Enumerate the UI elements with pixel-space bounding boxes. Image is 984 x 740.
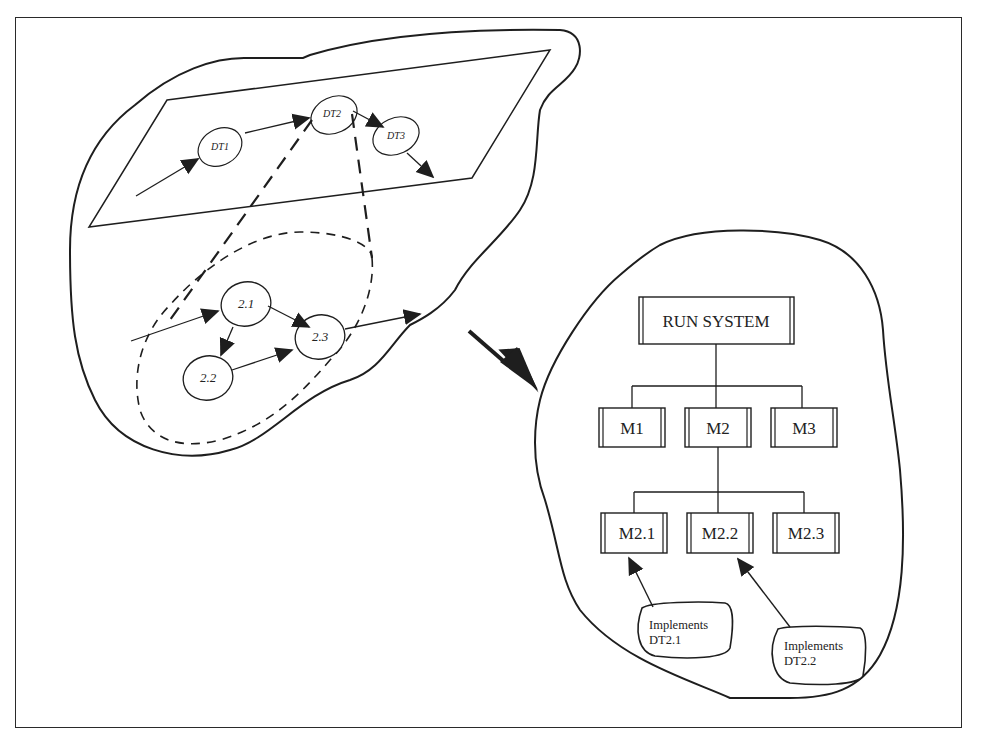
node-2-3: 2.3 [290, 309, 350, 364]
node-dt2-label: DT2 [322, 108, 341, 119]
node-2-3-label: 2.3 [312, 329, 329, 344]
module-m2-1: M2.1 [601, 513, 667, 553]
module-m3-label: M3 [792, 419, 816, 438]
module-m2: M2 [685, 408, 751, 447]
module-m2-label: M2 [706, 419, 730, 438]
note-implements-dt2-2: Implements DT2.2 [772, 626, 865, 684]
module-m3: M3 [771, 408, 837, 447]
note-1-line1: Implements [649, 618, 708, 632]
module-run-system: RUN SYSTEM [639, 297, 794, 344]
note-2-line1: Implements [784, 639, 843, 653]
arrow-dt3-out [407, 153, 433, 177]
module-m2-2: M2.2 [687, 513, 753, 553]
diagram-canvas: DT1 DT2 DT3 2.1 2.2 2.3 [0, 0, 984, 740]
node-2-1: 2.1 [216, 276, 276, 331]
arrow-note1-m2-1 [629, 558, 653, 607]
expansion-line-right [352, 114, 372, 258]
module-m1: M1 [599, 408, 665, 447]
module-run-system-label: RUN SYSTEM [662, 312, 769, 331]
arrow-note2-m2-2 [738, 559, 790, 627]
arrow-dt1-dt2 [245, 118, 309, 133]
node-dt2: DT2 [305, 89, 364, 142]
left-region-outline [70, 30, 580, 456]
module-m2-3-label: M2.3 [788, 524, 824, 543]
node-2-2: 2.2 [178, 350, 238, 405]
top-plane [89, 50, 550, 227]
node-2-1-label: 2.1 [238, 296, 254, 311]
module-m2-3: M2.3 [773, 513, 839, 553]
arrow-dt2-dt3 [353, 111, 383, 127]
node-dt1-label: DT1 [210, 141, 229, 152]
transform-arrow-icon [469, 331, 541, 392]
arrow-in-dt1 [136, 159, 198, 196]
arrow-2-1-2-2 [221, 327, 233, 355]
note-implements-dt2-1: Implements DT2.1 [638, 602, 732, 658]
node-dt3: DT3 [367, 110, 426, 163]
node-dt3-label: DT3 [386, 130, 405, 141]
module-m1-label: M1 [620, 419, 644, 438]
note-1-line2: DT2.1 [649, 633, 681, 647]
note-2-line2: DT2.2 [784, 654, 816, 668]
arrow-2-1-2-3 [268, 306, 309, 327]
arrow-2-2-2-3 [232, 350, 292, 370]
node-2-2-label: 2.2 [200, 370, 217, 385]
module-m2-2-label: M2.2 [702, 524, 738, 543]
module-m2-1-label: M2.1 [619, 524, 655, 543]
node-dt1: DT1 [191, 120, 249, 174]
